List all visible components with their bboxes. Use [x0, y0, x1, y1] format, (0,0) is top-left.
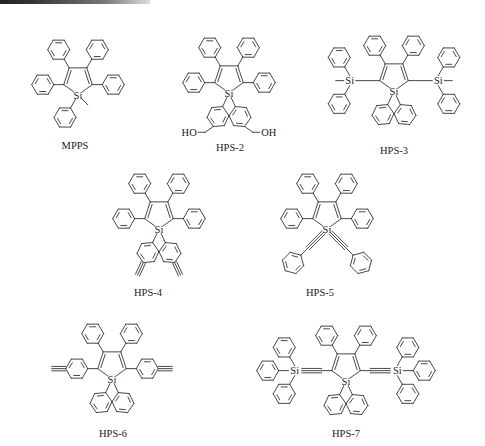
phenyl-ring-si-right — [346, 386, 368, 415]
phenyl-ring-si-right — [346, 248, 371, 273]
triphenylsilyl-c2: Si — [257, 338, 299, 403]
phenyl-ring-c4 — [335, 174, 357, 202]
phenyl-ring-c4 — [167, 174, 189, 202]
silole-ring: Si — [332, 354, 361, 387]
phenyl-ring-c3 — [82, 324, 104, 352]
phenyl-ring-c3 — [316, 326, 338, 354]
label-hps-3: HPS-3 — [380, 145, 408, 156]
phenyl-ring-c3 — [297, 174, 319, 202]
phenyl-ring-si-left — [207, 98, 229, 127]
phenyl-ring — [328, 48, 350, 76]
hydroxyl-right: OH — [261, 127, 277, 138]
label-hps-4: HPS-4 — [134, 287, 162, 298]
phenyl-ring-c2 — [183, 73, 215, 92]
silicon-atom: Si — [155, 224, 164, 235]
silicon-atom: Si — [342, 376, 351, 387]
phenyl-ring-si-right — [112, 384, 134, 413]
silole-ring: Si — [64, 68, 93, 101]
triphenylsilyl-c5: Si — [393, 338, 435, 403]
phenyl-ring-c2 — [32, 75, 64, 94]
silicon-atom: Si — [74, 90, 83, 101]
silicon-atom: Si — [290, 365, 299, 376]
phenyl-ring-c4 — [402, 36, 424, 64]
phenyl-ring-c5 — [173, 209, 205, 228]
silicon-atom: Si — [434, 75, 443, 86]
label-hps-7: HPS-7 — [332, 428, 360, 439]
label-hps-6: HPS-6 — [99, 428, 127, 439]
silicon-atom: Si — [390, 86, 399, 97]
ethynylphenyl-ring-c2 — [66, 359, 98, 378]
phenyl-ring-c3 — [199, 38, 221, 66]
methyldiphenylsilyl-c5: Si — [434, 48, 460, 113]
chemical-structures-canvas: SiSiHOOHSiSiSiSiSiSiSiSiSi — [0, 0, 485, 446]
silicon-atom: Si — [108, 374, 117, 385]
phenyl-ring-c2 — [281, 209, 313, 228]
phenyl-ring-c5 — [92, 75, 124, 94]
phenyl-ring-c5 — [243, 73, 275, 92]
phenyl-ring-si-left — [137, 234, 159, 263]
phenyl-ring-si-left — [90, 384, 112, 413]
ethynyl-si-right — [173, 262, 183, 277]
silicon-atom: Si — [323, 224, 332, 235]
phenyl-ring-c3 — [48, 40, 70, 68]
silole-ring: Si — [215, 66, 244, 99]
silicon-atom: Si — [393, 365, 402, 376]
phenyl-ring-c3 — [364, 36, 386, 64]
phenyl-ring — [438, 86, 460, 114]
phenyl-ring-c2 — [113, 209, 145, 228]
alkyne-c2 — [302, 368, 322, 372]
molecule-hps-5: Si — [281, 174, 374, 273]
silole-ring: Si — [380, 64, 409, 97]
phenyl-ring — [403, 361, 435, 380]
phenyl-ring-c4 — [120, 324, 142, 352]
label-mpps: MPPS — [62, 140, 89, 151]
alkyne-c5 — [370, 368, 390, 372]
ethynyl-c5 — [158, 366, 172, 370]
phenyl-ring — [257, 361, 289, 380]
phenyl-ring-si-left — [324, 386, 346, 415]
molecule-hps-6: Si — [52, 324, 173, 412]
methyldiphenylsilyl-c2: Si — [328, 48, 354, 113]
ethynylphenyl-ring-c5 — [126, 359, 158, 378]
phenyl-ring-si-right — [159, 234, 181, 263]
molecule-hps-4: Si — [113, 174, 206, 276]
phenyl-ring-c4 — [354, 326, 376, 354]
phenyl-ring — [328, 86, 350, 114]
alkyne-si-right — [329, 231, 348, 250]
silole-ring: Si — [98, 352, 127, 385]
phenyl-ring — [273, 338, 295, 366]
phenyl-ring — [438, 48, 460, 76]
phenyl-ring — [397, 376, 419, 404]
phenyl-ring-c4 — [237, 38, 259, 66]
silole-ring: Si — [145, 202, 174, 235]
phenyl-ring-si-right — [229, 98, 251, 127]
molecule-hps-3: SiSiSi — [328, 36, 460, 124]
phenyl-ring-c3 — [129, 174, 151, 202]
alkyne-si-left — [306, 231, 325, 250]
ethynyl-si-left — [135, 262, 145, 277]
molecule-hps-7: SiSiSi — [257, 326, 436, 414]
hydroxyl-left: HO — [182, 127, 198, 138]
phenyl-ring — [397, 338, 419, 366]
molecule-hps-2: SiHOOH — [182, 38, 277, 138]
silicon-atom: Si — [345, 75, 354, 86]
phenyl-ring-si-right — [394, 96, 416, 125]
silole-ring: Si — [313, 202, 342, 235]
label-hps-5: HPS-5 — [306, 287, 334, 298]
phenyl-ring-si — [54, 99, 76, 127]
phenyl-ring-c4 — [86, 40, 108, 68]
phenyl-ring-c5 — [341, 209, 373, 228]
molecule-mpps: Si — [32, 40, 125, 127]
phenyl-ring-si-left — [372, 96, 394, 125]
label-hps-2: HPS-2 — [216, 142, 244, 153]
ethynyl-c2 — [52, 366, 66, 370]
silicon-atom: Si — [225, 88, 234, 99]
phenyl-ring — [273, 376, 295, 404]
phenyl-ring-si-left — [282, 248, 307, 273]
